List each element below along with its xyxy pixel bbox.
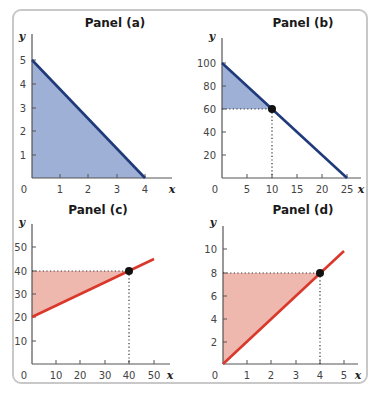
svg-text:8: 8 bbox=[211, 268, 217, 279]
panel-b: Panel (b) y x 0 5 10 15 20 25 20 40 60 8… bbox=[197, 16, 365, 196]
svg-text:50: 50 bbox=[14, 242, 27, 253]
y-tick-labels: 1 2 3 4 5 bbox=[20, 55, 26, 161]
svg-text:1: 1 bbox=[244, 370, 250, 381]
svg-text:4: 4 bbox=[142, 184, 148, 195]
panel-c: Panel (c) y x 0 10 20 30 40 50 10 20 30 … bbox=[14, 203, 173, 382]
data-line bbox=[222, 63, 347, 178]
svg-text:30: 30 bbox=[14, 289, 27, 300]
y-tick-labels: 10 20 30 40 50 bbox=[14, 242, 27, 347]
svg-text:2: 2 bbox=[85, 184, 91, 195]
svg-text:2: 2 bbox=[268, 370, 274, 381]
svg-text:25: 25 bbox=[341, 184, 354, 195]
svg-text:20: 20 bbox=[74, 370, 87, 381]
x-tick-labels: 0 1 2 3 4 bbox=[21, 184, 148, 195]
svg-text:10: 10 bbox=[266, 184, 279, 195]
svg-text:1: 1 bbox=[20, 150, 26, 161]
svg-text:30: 30 bbox=[99, 370, 112, 381]
svg-text:0: 0 bbox=[212, 370, 218, 381]
chart-canvas: Panel (a) y x 0 1 2 3 4 1 2 3 4 5 Panel … bbox=[0, 0, 377, 396]
panel-a: Panel (a) y x 0 1 2 3 4 1 2 3 4 5 bbox=[18, 16, 176, 196]
x-axis-label: x bbox=[166, 369, 174, 382]
svg-text:4: 4 bbox=[317, 370, 323, 381]
svg-text:1: 1 bbox=[57, 184, 63, 195]
y-axis-label: y bbox=[209, 216, 218, 229]
svg-text:0: 0 bbox=[212, 184, 218, 195]
panel-title: Panel (c) bbox=[68, 203, 128, 217]
svg-text:6: 6 bbox=[211, 291, 217, 302]
panel-title: Panel (d) bbox=[272, 203, 333, 217]
panel-title: Panel (b) bbox=[272, 16, 333, 30]
svg-text:0: 0 bbox=[21, 370, 27, 381]
svg-text:15: 15 bbox=[291, 184, 304, 195]
svg-text:20: 20 bbox=[203, 150, 216, 161]
x-axis-label: x bbox=[357, 183, 365, 196]
svg-text:40: 40 bbox=[14, 266, 27, 277]
svg-text:2: 2 bbox=[20, 126, 26, 137]
y-axis-label: y bbox=[18, 30, 27, 43]
svg-text:20: 20 bbox=[316, 184, 329, 195]
svg-text:40: 40 bbox=[203, 127, 216, 138]
y-axis-label: y bbox=[18, 216, 27, 229]
x-axis-label: x bbox=[354, 369, 362, 382]
svg-text:5: 5 bbox=[20, 55, 26, 66]
svg-text:4: 4 bbox=[211, 314, 217, 325]
svg-text:0: 0 bbox=[21, 184, 27, 195]
svg-text:10: 10 bbox=[50, 370, 63, 381]
svg-text:100: 100 bbox=[197, 58, 216, 69]
data-point bbox=[268, 105, 276, 113]
svg-text:80: 80 bbox=[203, 81, 216, 92]
data-point bbox=[125, 267, 133, 275]
svg-text:5: 5 bbox=[341, 370, 347, 381]
svg-text:10: 10 bbox=[204, 244, 217, 255]
svg-text:5: 5 bbox=[244, 184, 250, 195]
svg-text:4: 4 bbox=[20, 79, 26, 90]
panel-d: Panel (d) y x 0 1 2 3 4 5 2 4 6 8 10 bbox=[204, 203, 361, 382]
svg-text:10: 10 bbox=[14, 336, 27, 347]
y-axis-label: y bbox=[208, 30, 217, 43]
svg-text:20: 20 bbox=[14, 312, 27, 323]
svg-text:3: 3 bbox=[293, 370, 299, 381]
y-tick-labels: 2 4 6 8 10 bbox=[204, 244, 217, 348]
svg-text:2: 2 bbox=[211, 337, 217, 348]
svg-text:50: 50 bbox=[148, 370, 161, 381]
svg-text:60: 60 bbox=[203, 104, 216, 115]
x-tick-labels: 0 10 20 30 40 50 bbox=[21, 370, 161, 381]
panel-title: Panel (a) bbox=[85, 16, 146, 30]
y-tick-labels: 20 40 60 80 100 bbox=[197, 58, 216, 161]
svg-text:40: 40 bbox=[123, 370, 136, 381]
x-tick-labels: 0 5 10 15 20 25 bbox=[212, 184, 354, 195]
x-tick-labels: 0 1 2 3 4 5 bbox=[212, 370, 347, 381]
svg-text:3: 3 bbox=[20, 103, 26, 114]
data-point bbox=[316, 269, 324, 277]
x-axis-label: x bbox=[168, 183, 176, 196]
svg-text:3: 3 bbox=[114, 184, 120, 195]
